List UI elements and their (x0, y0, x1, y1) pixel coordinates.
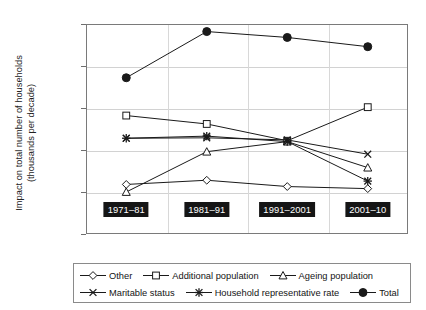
x-axis-category-1: 1971–81 (104, 202, 149, 217)
legend-label: Other (109, 271, 132, 281)
x-axis-category-2: 1981–91 (184, 202, 229, 217)
legend-label: Household representative rate (215, 288, 340, 298)
chart-legend: OtherAdditional populationAgeing populat… (73, 263, 411, 303)
x-axis-category-4: 2001–10 (345, 202, 390, 217)
x-axis-category-3: 1991–2001 (259, 202, 315, 217)
legend-item-other[interactable]: Other (80, 270, 132, 281)
legend-item-household-representative-rate[interactable]: Household representative rate (186, 287, 340, 298)
series-ageing-population (122, 138, 372, 196)
legend-marker-diamond-icon (80, 270, 106, 281)
y-axis-title-line-1: Impact on total number of households (14, 38, 26, 228)
legend-label: Ageing population (299, 271, 373, 281)
legend-marker-star-icon (186, 287, 212, 298)
series-other (122, 176, 371, 192)
legend-row: OtherAdditional populationAgeing populat… (74, 267, 410, 284)
legend-marker-square-icon (143, 270, 169, 281)
legend-item-maritable-status[interactable]: Maritable status (80, 287, 175, 298)
legend-label: Total (379, 288, 399, 298)
legend-marker-triangle-icon (270, 270, 296, 281)
y-tick-mark (81, 234, 86, 235)
chart-container: Impact on total number of households (th… (0, 0, 426, 310)
y-axis-title: Impact on total number of households (th… (14, 38, 44, 228)
legend-marker-circle-icon (350, 287, 376, 298)
legend-item-additional-population[interactable]: Additional population (143, 270, 258, 281)
legend-row: Maritable statusHousehold representative… (74, 284, 410, 301)
series-household-representative-rate (122, 132, 372, 185)
y-axis-title-line-2: (thousands per decade) (26, 38, 38, 228)
series-total (122, 28, 372, 82)
legend-item-ageing-population[interactable]: Ageing population (270, 270, 373, 281)
legend-label: Additional population (172, 271, 258, 281)
series-maritable-status (123, 134, 371, 157)
legend-marker-cross-icon (80, 287, 106, 298)
legend-item-total[interactable]: Total (350, 287, 399, 298)
legend-label: Maritable status (109, 288, 175, 298)
